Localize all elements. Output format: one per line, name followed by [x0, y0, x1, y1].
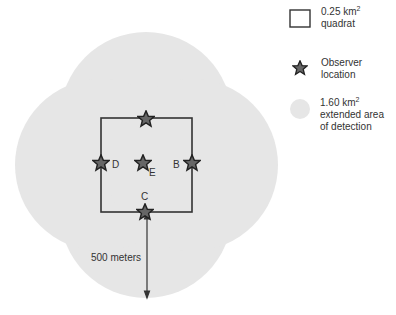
distance-label: 500 meters: [91, 252, 141, 264]
legend-observer-label: Observer location: [321, 57, 362, 81]
detection-diagram: [0, 0, 396, 315]
label-e: E: [149, 167, 156, 179]
label-b: B: [173, 159, 180, 171]
legend-quadrat-label: 0.25 km2 quadrat: [321, 6, 360, 30]
label-c: C: [141, 191, 148, 203]
label-d: D: [112, 159, 119, 171]
legend-star-icon: [293, 61, 307, 75]
legend-area-label: 1.60 km2 extended area of detection: [320, 97, 384, 133]
legend-quadrat-icon: [290, 10, 310, 27]
legend-area-icon: [290, 99, 310, 119]
